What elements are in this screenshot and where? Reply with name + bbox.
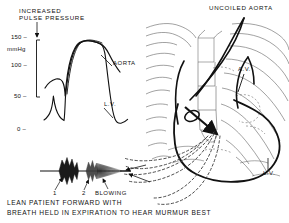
- murmur-radiation-path: [124, 132, 220, 204]
- lv-curve-label: L.V.: [104, 101, 116, 108]
- first-heart-sound-label: 1: [53, 190, 57, 197]
- aortic-valve-marker: [183, 109, 201, 124]
- y-tick-100: 100 –: [11, 62, 27, 69]
- figure-root: INCREASED PULSE PRESSURE UNCOILED AORTA …: [0, 0, 289, 223]
- pressure-tracing-panel: [37, 22, 128, 123]
- y-axis-unit: mmHg: [7, 46, 25, 53]
- second-heart-sound-burst: [86, 161, 98, 182]
- figure-artwork: [0, 0, 289, 223]
- blowing-pointer: [103, 179, 108, 189]
- second-heart-sound-label: 2: [82, 190, 86, 197]
- pulse-pressure-title: INCREASED PULSE PRESSURE: [19, 7, 85, 22]
- aortic-knob-outline: [236, 95, 260, 123]
- murmur-quality-label: BLOWING: [95, 190, 127, 197]
- aorta-pressure-curve-secondary: [67, 40, 102, 94]
- y-tick-50: 50 –: [14, 93, 27, 100]
- y-tick-0: 0 –: [17, 126, 26, 133]
- phonocardiogram-panel: [40, 158, 131, 191]
- lv-label-leader: [104, 108, 113, 118]
- s2-pointer: [84, 180, 89, 190]
- lv-pressure-curve: [44, 41, 128, 124]
- s1-pointer: [55, 178, 62, 190]
- chest-anatomy: [146, 23, 289, 176]
- aorta-curve-label: AORTA: [113, 60, 136, 67]
- y-tick-150: 150 –: [11, 34, 27, 41]
- left-ventricle-label: L.V.: [263, 170, 275, 177]
- caption-line-1: LEAN PATIENT FORWARD WITH: [7, 199, 122, 207]
- uncoiled-aorta-title: UNCOILED AORTA: [209, 4, 273, 11]
- aortic-valve-label: A.V.: [238, 66, 251, 73]
- first-heart-sound-burst: [59, 158, 79, 185]
- caption-line-2: BREATH HELD IN EXPIRATION TO HEAR MURMUR…: [7, 209, 211, 217]
- diastolic-murmur-wedge: [97, 163, 122, 179]
- pulse-pressure-bracket: [37, 40, 41, 97]
